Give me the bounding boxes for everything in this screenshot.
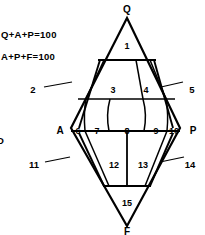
field-label-13: 13 <box>138 160 148 170</box>
vertex-label-P: P <box>190 125 197 136</box>
field-label-2: 2 <box>30 84 35 95</box>
field-label-15: 15 <box>122 198 132 208</box>
vertex-label-A: A <box>56 125 63 136</box>
field-label-4: 4 <box>143 85 148 95</box>
qapf-double-triangle-svg: Q A P F 1 2 3 4 5 6 7 8 9 10 11 12 13 14… <box>0 0 205 235</box>
horizontal-dividers <box>71 60 180 186</box>
field-label-3: 3 <box>110 85 115 95</box>
field-label-5: 5 <box>189 84 195 95</box>
vertex-label-F: F <box>124 226 130 235</box>
field-label-9: 9 <box>153 126 158 136</box>
field-label-1: 1 <box>124 41 129 51</box>
leader-line-2 <box>44 82 72 87</box>
qapf-diagram-root: Q+A+P=100 A+P+F=100 D <box>0 0 205 235</box>
field-label-10: 10 <box>169 126 179 136</box>
field-label-6: 6 <box>75 126 80 136</box>
field-label-7: 7 <box>94 126 99 136</box>
field-label-14: 14 <box>185 159 196 170</box>
field-label-12: 12 <box>109 160 119 170</box>
leader-line-11 <box>45 157 70 162</box>
field-label-8: 8 <box>124 126 129 136</box>
upper-inner-envelope <box>79 60 173 128</box>
vertex-label-Q: Q <box>123 4 131 15</box>
leader-line-5 <box>161 82 183 87</box>
lower-inner-envelope <box>79 133 173 186</box>
field-label-11: 11 <box>29 159 40 170</box>
lower-row-subdividers <box>85 131 167 186</box>
